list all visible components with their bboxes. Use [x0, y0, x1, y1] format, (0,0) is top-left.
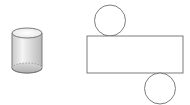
cylinder-net-diagram	[0, 0, 190, 105]
cylinder-3d	[12, 28, 42, 73]
net-rectangle	[87, 36, 183, 73]
cylinder-top	[12, 28, 42, 38]
net-bottom-circle	[145, 73, 176, 104]
cylinder-net	[87, 5, 183, 104]
net-top-circle	[95, 5, 126, 36]
